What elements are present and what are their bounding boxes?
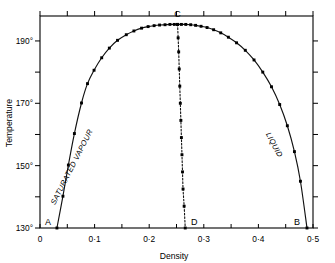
series-rectilinear-diameter [178, 24, 186, 228]
y-axis-ticks [35, 41, 318, 228]
y-tick-label: 190° [16, 36, 33, 46]
data-point [177, 50, 180, 53]
plot-frame [40, 16, 313, 228]
data-point [181, 153, 184, 156]
data-point [189, 23, 192, 26]
data-point [179, 102, 182, 105]
data-point [108, 47, 111, 50]
annotation-d: D [191, 217, 198, 227]
data-point [184, 23, 187, 26]
x-tick-label: 0·1 [89, 234, 101, 244]
data-point [180, 136, 183, 139]
data-point [306, 227, 309, 230]
data-point [86, 82, 89, 85]
data-point [158, 24, 161, 27]
data-point [116, 39, 119, 42]
data-point [178, 85, 181, 88]
data-point [253, 59, 256, 62]
annotation-b: B [294, 217, 300, 227]
chart-canvas: 00·10·20·30·40·5 130°150°170°190° ABCD S… [0, 0, 335, 263]
data-point [278, 103, 281, 106]
data-point [169, 23, 172, 26]
data-point [270, 85, 273, 88]
x-tick-label: 0·2 [143, 234, 155, 244]
data-point [177, 36, 180, 39]
region-label-saturated-vapour: SATURATED VAPOUR [49, 127, 95, 206]
annotation-c: C [174, 9, 181, 19]
data-point [80, 102, 83, 105]
data-point [100, 56, 103, 59]
data-point [180, 23, 183, 26]
data-point [153, 24, 156, 27]
x-axis-tick-labels: 00·10·20·30·40·5 [38, 234, 320, 244]
data-point [200, 25, 203, 28]
region-label-liquid: LIQUID [264, 131, 285, 159]
data-point [55, 227, 58, 230]
x-tick-label: 0 [38, 234, 43, 244]
x-tick-label: 0·5 [307, 234, 319, 244]
data-point [181, 170, 184, 173]
data-point [182, 188, 185, 191]
data-point [206, 26, 209, 29]
y-axis-tick-labels: 130°150°170°190° [16, 36, 33, 233]
data-point [140, 27, 143, 30]
data-point [176, 23, 179, 26]
plot-border [40, 16, 313, 228]
data-point [173, 23, 176, 26]
data-point [132, 30, 135, 33]
data-point [212, 28, 215, 31]
data-point [286, 124, 289, 127]
data-point [183, 205, 186, 208]
data-point [293, 150, 296, 153]
data-point [244, 49, 247, 52]
data-point [164, 23, 167, 26]
series-saturated-vapour-branch [57, 24, 178, 228]
data-point [261, 71, 264, 74]
x-tick-label: 0·4 [252, 234, 264, 244]
data-point [194, 24, 197, 27]
data-point [178, 68, 181, 71]
data-point [184, 227, 187, 230]
x-tick-label: 0·3 [198, 234, 210, 244]
data-point [299, 180, 302, 183]
x-axis-title: Density [160, 251, 189, 261]
data-point [219, 31, 222, 34]
y-tick-label: 150° [16, 161, 33, 171]
y-tick-label: 130° [16, 223, 33, 233]
data-point [73, 132, 76, 135]
point-annotations: ABCD [45, 9, 300, 227]
coexistence-curve-figure: 00·10·20·30·40·5 130°150°170°190° ABCD S… [0, 0, 335, 263]
y-tick-label: 170° [16, 98, 33, 108]
data-series-layer [57, 24, 307, 228]
region-labels: SATURATED VAPOURLIQUID [49, 127, 285, 206]
data-point [179, 119, 182, 122]
x-axis-ticks [40, 11, 313, 228]
y-axis-title: Temperature [4, 99, 14, 147]
data-point [147, 25, 150, 28]
data-point [125, 33, 128, 36]
data-point [227, 36, 230, 39]
data-marker-layer [55, 23, 308, 229]
annotation-a: A [45, 217, 51, 227]
data-point [93, 69, 96, 72]
data-point [235, 41, 238, 44]
